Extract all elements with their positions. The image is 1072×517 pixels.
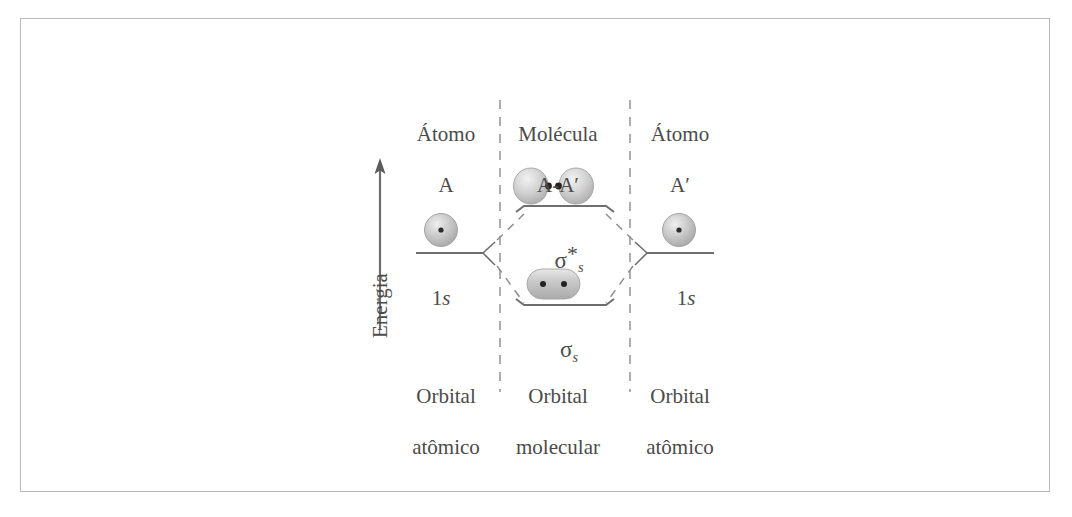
level-label-1s-right: 1s xyxy=(651,260,721,311)
column-header-atom-a-prime-line1: Átomo xyxy=(600,122,760,148)
correlation-left-to-bonding xyxy=(497,266,524,303)
molecular-orbital-figure: Átomo A Molécula A-Aʹ Átomo Aʹ Orbital a… xyxy=(0,0,1072,517)
column-footer-atomic-orbital-right: Orbital atômico xyxy=(595,358,765,486)
sigma-star-base: σ xyxy=(555,248,567,273)
level-label-sigma-star: σ*s xyxy=(524,213,614,277)
sigma-star-subscript: s xyxy=(578,259,584,275)
sigma-subscript: s xyxy=(572,349,578,365)
column-header-atom-a-prime: Átomo Aʹ xyxy=(600,96,760,224)
level-label-sigma: σs xyxy=(524,308,614,366)
column-footer-atomic-orbital-right-line2: atômico xyxy=(595,435,765,461)
sigma-star-superscript: * xyxy=(567,242,578,266)
sigma-base: σ xyxy=(560,337,572,362)
energy-axis-label: Energia xyxy=(368,273,393,338)
energy-level-sigma xyxy=(516,299,614,305)
column-header-atom-a-prime-line2: Aʹ xyxy=(600,173,760,199)
level-label-1s-right-text: 1s xyxy=(677,286,696,310)
level-label-1s-left-text: 1s xyxy=(432,286,451,310)
column-footer-atomic-orbital-right-line1: Orbital xyxy=(595,384,765,410)
level-label-1s-left: 1s xyxy=(406,260,476,311)
